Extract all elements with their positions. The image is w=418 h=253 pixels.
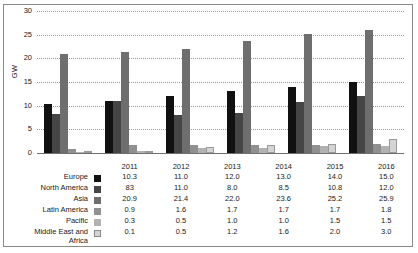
bar-group (159, 11, 220, 153)
bar (105, 101, 113, 153)
bar (44, 104, 52, 153)
bar (381, 146, 389, 153)
bar (288, 87, 296, 153)
y-axis-tick-label: 5 (28, 126, 32, 134)
bar (113, 101, 121, 153)
bar (304, 34, 312, 153)
bar-group (282, 11, 343, 153)
bar (373, 144, 381, 153)
legend-swatch (94, 219, 101, 226)
y-axis-tick-label: 20 (24, 55, 32, 63)
bar (182, 49, 190, 153)
legend-swatch (94, 186, 101, 193)
gridline (37, 153, 404, 154)
bar (52, 114, 60, 153)
y-axis-tick-label: 15 (24, 78, 32, 86)
bar-group (37, 11, 98, 153)
bar (68, 149, 76, 153)
bar (259, 148, 267, 153)
table-cell: 0.5 (155, 228, 206, 248)
table-cell: 1.6 (258, 228, 309, 248)
y-axis-tick-label: 10 (24, 102, 32, 110)
y-axis-tick-label: 25 (24, 31, 32, 39)
bar (190, 145, 198, 153)
bar (60, 54, 68, 153)
bar (166, 96, 174, 153)
bar (137, 151, 145, 153)
y-axis-tick-label: 0 (28, 149, 32, 157)
table-corner-swatch-cell (91, 163, 104, 173)
bar (267, 145, 275, 153)
bar-group (98, 11, 159, 153)
legend-swatch (94, 175, 101, 182)
bar (121, 52, 129, 153)
table-cell: 0.1 (104, 228, 155, 248)
bar-group (221, 11, 282, 153)
bar (84, 151, 92, 153)
legend-swatch (94, 197, 101, 204)
legend-swatch-cell (91, 217, 104, 228)
plot-area: 051015202530 (37, 11, 404, 153)
bar (312, 145, 320, 153)
table-row: Middle East andAfrica0.10.51.21.62.03.0 (4, 228, 412, 248)
plot-region: GW 051015202530 (4, 5, 412, 163)
table-cell: 2.0 (309, 228, 360, 248)
legend-swatch-cell (91, 173, 104, 184)
bar (145, 151, 153, 153)
legend-swatch-cell (91, 195, 104, 206)
bar (296, 102, 304, 153)
legend-swatch (94, 208, 101, 215)
bar (349, 82, 357, 153)
bar (328, 144, 336, 153)
legend-swatch (94, 230, 101, 237)
bar (76, 152, 84, 153)
table-cell: 3.0 (361, 228, 412, 248)
bar (389, 139, 397, 153)
bar (320, 146, 328, 153)
bar (206, 147, 214, 153)
bar (174, 115, 182, 153)
bar (251, 145, 259, 153)
bar (365, 30, 373, 153)
bar (198, 148, 206, 153)
table-row: North America8311.08.08.510.812.0 (4, 184, 412, 195)
bar (243, 41, 251, 153)
data-table: 201120122013201420152016Europe10.311.012… (4, 163, 412, 248)
bar-group (343, 11, 404, 153)
y-axis-label: GW (10, 65, 19, 79)
bar (227, 91, 235, 153)
table-cell: 1.2 (207, 228, 258, 248)
bar (357, 96, 365, 153)
legend-swatch-cell (91, 184, 104, 195)
bar-groups (37, 11, 404, 153)
bar (129, 145, 137, 153)
legend-swatch-cell (91, 206, 104, 217)
bar (235, 113, 243, 153)
legend-swatch-cell (91, 228, 104, 248)
row-label: Middle East andAfrica (4, 228, 91, 248)
y-axis-tick-label: 30 (24, 7, 32, 15)
chart-frame: GW 051015202530 201120122013201420152016… (3, 4, 413, 247)
